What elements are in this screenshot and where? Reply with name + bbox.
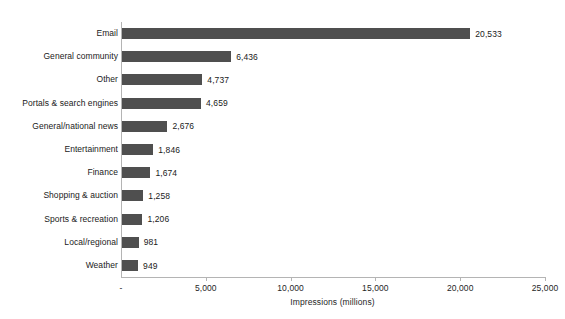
- bar-row: Sports & recreation1,206: [0, 208, 565, 231]
- category-label: General community: [43, 45, 118, 68]
- bar-value-label: 1,674: [155, 168, 177, 178]
- category-label: Weather: [86, 254, 118, 277]
- category-label: Shopping & auction: [43, 184, 118, 207]
- bar-row: Finance1,674: [0, 161, 565, 184]
- bar-value-label: 20,533: [475, 29, 502, 39]
- bar-and-value: 1,674: [122, 161, 177, 184]
- category-label: Local/regional: [64, 231, 118, 254]
- x-axis-tick-label: 15,000: [362, 283, 389, 293]
- bar-and-value: 981: [122, 231, 158, 254]
- bar-chart: Email20,533General community6,436Other4,…: [0, 0, 565, 319]
- bar-row: General/national news2,676: [0, 115, 565, 138]
- category-label: General/national news: [32, 115, 118, 138]
- bar-and-value: 949: [122, 254, 158, 277]
- bar-and-value: 2,676: [122, 115, 194, 138]
- x-axis-tick: [206, 277, 207, 281]
- bar-value-label: 981: [144, 237, 158, 247]
- category-label: Portals & search engines: [22, 92, 118, 115]
- bar[interactable]: [122, 74, 202, 85]
- x-axis-tick-label: 5,000: [195, 283, 217, 293]
- bar-and-value: 1,258: [122, 184, 170, 207]
- x-axis-tick-label: -: [120, 283, 123, 293]
- bar[interactable]: [122, 51, 231, 62]
- bar-value-label: 4,659: [206, 98, 228, 108]
- category-label: Other: [96, 68, 118, 91]
- x-axis-tick-label: 10,000: [277, 283, 304, 293]
- bar[interactable]: [122, 98, 201, 109]
- x-axis-tick: [291, 277, 292, 281]
- bar[interactable]: [122, 190, 143, 201]
- bar-row: Entertainment1,846: [0, 138, 565, 161]
- bar-row: Local/regional981: [0, 231, 565, 254]
- bar-value-label: 4,737: [207, 75, 229, 85]
- bar[interactable]: [122, 214, 142, 225]
- bar-value-label: 1,846: [158, 145, 180, 155]
- x-axis-tick: [545, 277, 546, 281]
- category-label: Entertainment: [64, 138, 118, 161]
- bar-and-value: 4,659: [122, 92, 228, 115]
- bar-row: General community6,436: [0, 45, 565, 68]
- bar-and-value: 4,737: [122, 68, 229, 91]
- bar-row: Shopping & auction1,258: [0, 184, 565, 207]
- bar-value-label: 949: [143, 261, 157, 271]
- bar-value-label: 1,206: [147, 214, 169, 224]
- category-label: Email: [96, 22, 118, 45]
- bar[interactable]: [122, 260, 138, 271]
- bar[interactable]: [122, 237, 139, 248]
- bar[interactable]: [122, 167, 150, 178]
- bar-value-label: 2,676: [172, 121, 194, 131]
- bar-row: Portals & search engines4,659: [0, 92, 565, 115]
- x-axis-tick: [375, 277, 376, 281]
- bar-row: Weather949: [0, 254, 565, 277]
- bar-value-label: 6,436: [236, 52, 258, 62]
- category-label: Finance: [87, 161, 118, 184]
- bar-row: Email20,533: [0, 22, 565, 45]
- bar[interactable]: [122, 121, 167, 132]
- bar[interactable]: [122, 28, 470, 39]
- bar-and-value: 6,436: [122, 45, 258, 68]
- x-axis-tick-label: 20,000: [447, 283, 474, 293]
- bar-and-value: 1,846: [122, 138, 180, 161]
- bar-value-label: 1,258: [148, 191, 170, 201]
- x-axis-tick: [460, 277, 461, 281]
- bar-row: Other4,737: [0, 68, 565, 91]
- x-axis-tick-label: 25,000: [532, 283, 559, 293]
- category-label: Sports & recreation: [44, 208, 118, 231]
- bar-and-value: 1,206: [122, 208, 169, 231]
- x-axis-title-label: Impressions (millions): [290, 297, 374, 307]
- bar[interactable]: [122, 144, 153, 155]
- x-axis-title: Impressions (millions): [0, 297, 565, 307]
- bar-and-value: 20,533: [122, 22, 502, 45]
